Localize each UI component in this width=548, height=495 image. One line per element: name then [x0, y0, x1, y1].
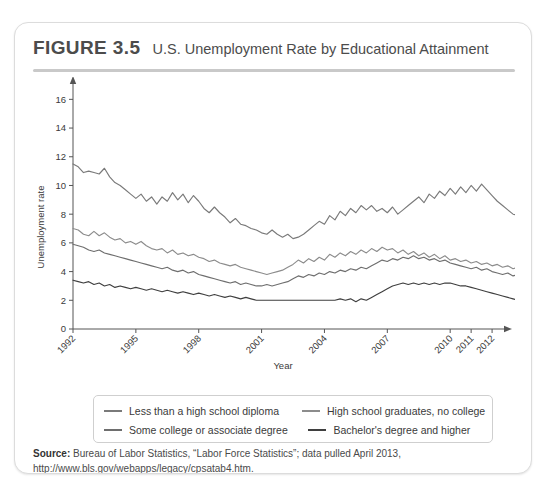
legend-row: Some college or associate degree Bachelo…: [104, 420, 482, 439]
legend-label: Bachelor's degree and higher: [333, 424, 470, 436]
x-axis-title: Year: [273, 360, 292, 371]
series-line: [73, 102, 515, 238]
svg-text:1995: 1995: [118, 333, 141, 356]
svg-text:2011: 2011: [453, 333, 475, 355]
svg-text:2012: 2012: [474, 333, 497, 356]
svg-text:2007: 2007: [369, 333, 392, 356]
chart-tick-labels: 0246810121416199219951998200120042007201…: [55, 94, 497, 356]
figure-header: FIGURE 3.5U.S. Unemployment Rate by Educ…: [15, 23, 532, 71]
svg-text:2004: 2004: [306, 333, 329, 356]
legend-row: Less than a high school diploma High sch…: [104, 401, 482, 420]
legend-item-some-college[interactable]: Some college or associate degree: [104, 420, 308, 439]
chart-axes: [69, 77, 512, 333]
svg-text:14: 14: [55, 122, 66, 133]
svg-text:4: 4: [61, 266, 66, 277]
y-axis-title: Unemployment rate: [35, 186, 46, 269]
svg-text:1992: 1992: [55, 333, 78, 356]
header-divider: [33, 69, 515, 72]
svg-text:6: 6: [61, 237, 66, 248]
svg-text:8: 8: [61, 209, 66, 220]
chart-series-lines: [73, 102, 515, 302]
series-line: [73, 171, 515, 274]
figure-card: FIGURE 3.5U.S. Unemployment Rate by Educ…: [14, 22, 532, 474]
legend-item-high-school-graduates[interactable]: High school graduates, no college: [302, 401, 482, 420]
svg-text:12: 12: [55, 151, 66, 162]
svg-text:2001: 2001: [243, 333, 266, 356]
svg-text:16: 16: [55, 94, 66, 105]
legend-label: Less than a high school diploma: [129, 405, 279, 417]
chart-legend: Less than a high school diploma High sch…: [93, 395, 493, 443]
chart-plot-area: 0246810121416199219951998200120042007201…: [33, 77, 515, 377]
svg-text:2: 2: [61, 295, 66, 306]
source-note: Source: Bureau of Labor Statistics, “Lab…: [33, 447, 503, 474]
legend-swatch-icon: [104, 429, 122, 431]
legend-item-bachelors-degree[interactable]: Bachelor's degree and higher: [308, 420, 482, 439]
figure-title: U.S. Unemployment Rate by Educational At…: [152, 41, 488, 57]
legend-swatch-icon: [104, 410, 122, 412]
source-label: Source:: [33, 448, 70, 459]
unemployment-line-chart: 0246810121416199219951998200120042007201…: [33, 77, 515, 377]
legend-swatch-icon: [308, 429, 326, 431]
legend-swatch-icon: [302, 410, 320, 412]
legend-label: High school graduates, no college: [327, 405, 485, 417]
svg-text:0: 0: [61, 323, 66, 334]
legend-item-less-than-high-school[interactable]: Less than a high school diploma: [104, 401, 302, 420]
figure-number: FIGURE 3.5: [33, 37, 140, 58]
svg-text:10: 10: [55, 180, 66, 191]
legend-label: Some college or associate degree: [129, 424, 288, 436]
source-text: Bureau of Labor Statistics, “Labor Force…: [33, 448, 401, 474]
svg-text:1998: 1998: [180, 333, 203, 356]
svg-text:2010: 2010: [432, 333, 455, 356]
